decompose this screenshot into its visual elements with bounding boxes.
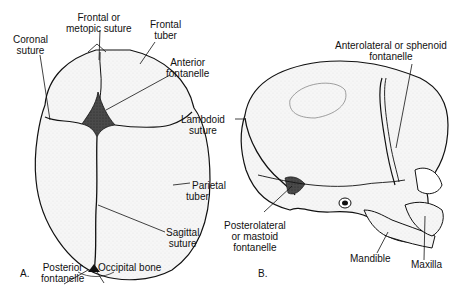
- label-line: Lambdoid: [181, 114, 225, 125]
- label-parietal-tuber: Parietal tuber: [192, 180, 226, 202]
- label-line: Anterior: [166, 57, 209, 68]
- label-line: Posterolateral: [224, 220, 286, 231]
- label-line: fontanelle: [166, 68, 209, 79]
- label-occipital-bone: Occipital bone: [98, 262, 161, 273]
- label-line: Parietal: [192, 180, 226, 191]
- label-frontal-metopic-suture: Frontal or metopic suture: [66, 12, 132, 34]
- label-anterior-fontanelle: Anterior fontanelle: [166, 57, 209, 79]
- label-line: fontanelle: [335, 51, 447, 62]
- label-frontal-tuber: Frontal tuber: [150, 19, 181, 41]
- label-anterolateral-fontanelle: Anterolateral or sphenoid fontanelle: [335, 40, 447, 62]
- label-line: suture: [13, 45, 48, 56]
- panel-letter-a: A.: [20, 268, 29, 279]
- label-line: tuber: [150, 30, 181, 41]
- label-posterior-fontanelle: Posterior fontanelle: [41, 262, 84, 284]
- label-line: Frontal: [150, 19, 181, 30]
- label-line: fontanelle: [41, 273, 84, 284]
- label-mandible: Mandible: [350, 253, 391, 264]
- label-line: suture: [166, 238, 199, 249]
- label-line: Frontal or: [66, 12, 132, 23]
- label-maxilla: Maxilla: [411, 259, 442, 270]
- label-line: Coronal: [13, 34, 48, 45]
- label-coronal-suture: Coronal suture: [13, 34, 48, 56]
- label-line: fontanelle: [224, 242, 286, 253]
- label-sagittal-suture: Sagittal suture: [166, 227, 199, 249]
- label-line: Posterior: [41, 262, 84, 273]
- label-posterolateral-fontanelle: Posterolateral or mastoid fontanelle: [224, 220, 286, 253]
- label-line: Sagittal: [166, 227, 199, 238]
- label-line: suture: [181, 125, 225, 136]
- label-line: tuber: [186, 191, 226, 202]
- panel-letter-b: B.: [258, 268, 267, 279]
- orbit: [415, 168, 442, 194]
- label-lambdoid-suture: Lambdoid suture: [181, 114, 225, 136]
- label-line: metopic suture: [66, 23, 132, 34]
- label-line: or mastoid: [224, 231, 286, 242]
- label-line: Anterolateral or sphenoid: [335, 40, 447, 51]
